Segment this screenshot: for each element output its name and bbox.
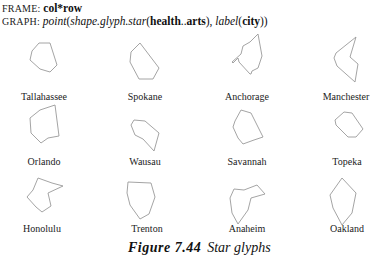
city-label: Anchorage <box>225 91 269 102</box>
city-label: Trenton <box>131 223 162 234</box>
star-glyph-oakland <box>330 178 356 225</box>
city-label: Anaheim <box>229 223 266 234</box>
city-label: Topeka <box>332 156 361 167</box>
city-label: Spokane <box>128 91 162 102</box>
city-label: Wausau <box>129 156 160 167</box>
city-label: Tallahassee <box>21 91 67 102</box>
figure-number: Figure 7.44 <box>128 240 201 255</box>
city-label: Savannah <box>228 156 267 167</box>
city-label: Oakland <box>330 223 364 234</box>
city-label: Orlando <box>28 156 61 167</box>
figure-caption: Figure 7.44Star glyphs <box>128 240 271 256</box>
star-glyph-orlando <box>30 105 59 143</box>
star-glyph-manchester <box>334 37 358 82</box>
city-label: Honolulu <box>23 223 61 234</box>
star-glyph-spokane <box>130 43 159 79</box>
figure-title: Star glyphs <box>207 240 270 255</box>
city-label: Manchester <box>323 91 370 102</box>
star-glyph-topeka <box>335 112 363 137</box>
star-glyph-tallahassee <box>30 43 57 72</box>
star-glyph-savannah <box>233 110 263 144</box>
star-glyph-anaheim <box>230 185 265 224</box>
star-glyph-trenton <box>127 182 155 219</box>
star-glyph-wausau <box>131 120 159 151</box>
star-glyph-honolulu <box>27 178 63 212</box>
star-glyph-anchorage <box>232 34 262 74</box>
